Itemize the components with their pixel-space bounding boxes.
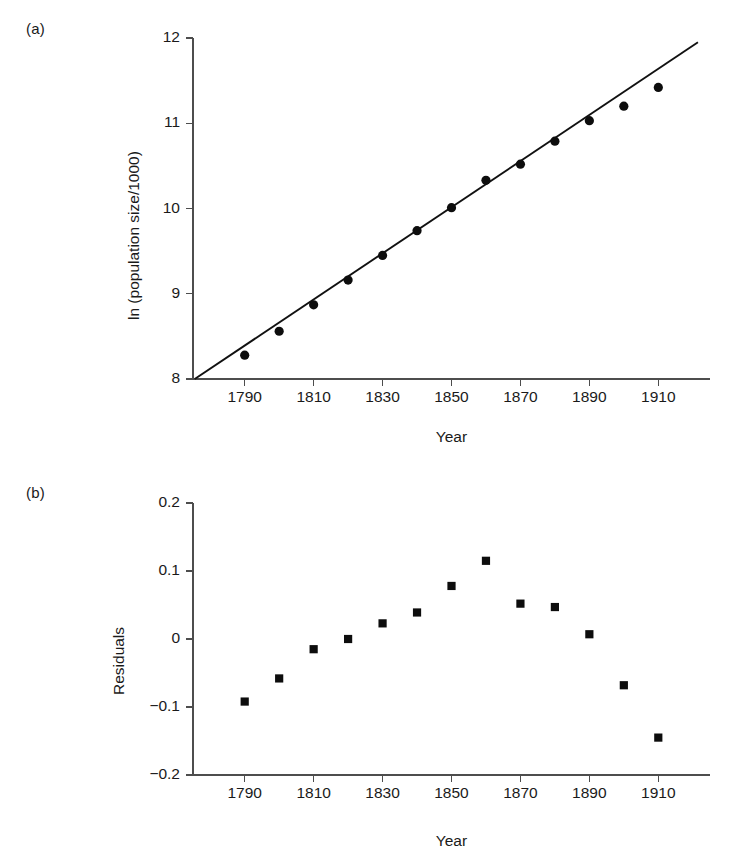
x-tick-label: 1810	[296, 388, 331, 405]
data-point	[378, 251, 387, 260]
panel-a: (a) 891011121790181018301850187018901910…	[0, 0, 754, 440]
x-tick-label: 1830	[365, 388, 400, 405]
data-point	[654, 83, 663, 92]
data-point	[275, 327, 284, 336]
data-point	[413, 608, 421, 616]
y-tick-label: 0	[171, 629, 180, 646]
x-tick-label: 1910	[641, 784, 676, 801]
data-point	[447, 203, 456, 212]
x-tick-label: 1810	[296, 784, 331, 801]
data-point	[447, 582, 455, 590]
data-point	[516, 600, 524, 608]
data-point	[620, 681, 628, 689]
x-tick-label: 1890	[572, 388, 607, 405]
x-tick-label: 1870	[503, 784, 538, 801]
panel-a-y-axis-title: ln (population size/1000)	[125, 151, 143, 320]
data-point	[309, 300, 318, 309]
y-tick-label: −0.2	[149, 765, 180, 782]
data-point	[550, 137, 559, 146]
data-point	[378, 619, 386, 627]
x-tick-label: 1830	[365, 784, 400, 801]
data-point	[654, 734, 662, 742]
data-point	[585, 116, 594, 125]
y-tick-label: 8	[171, 369, 180, 386]
x-tick-label: 1790	[227, 784, 262, 801]
x-tick-label: 1850	[434, 784, 469, 801]
y-tick-label: 0.2	[158, 493, 180, 510]
x-tick-label: 1890	[572, 784, 607, 801]
panel-b-x-axis-title: Year	[302, 832, 602, 850]
y-tick-label: 0.1	[158, 561, 180, 578]
y-tick-label: −0.1	[149, 697, 180, 714]
scatter-plot-population: 891011121790181018301850187018901910	[0, 0, 754, 440]
panel-b-y-axis-title: Residuals	[110, 627, 128, 695]
data-point	[412, 226, 421, 235]
data-point	[344, 276, 353, 285]
y-tick-label: 12	[163, 28, 180, 45]
data-point	[619, 102, 628, 111]
x-tick-label: 1910	[641, 388, 676, 405]
x-tick-label: 1870	[503, 388, 538, 405]
panel-b: (b) −0.2−0.100.10.2179018101830185018701…	[0, 440, 754, 867]
y-tick-label: 10	[163, 199, 181, 216]
y-tick-label: 9	[171, 284, 180, 301]
data-point	[482, 557, 490, 565]
x-tick-label: 1850	[434, 388, 469, 405]
data-point	[240, 351, 249, 360]
data-point	[344, 635, 352, 643]
data-point	[275, 674, 283, 682]
data-point	[481, 176, 490, 185]
regression-fit-line	[195, 42, 698, 379]
data-point	[516, 160, 525, 169]
data-point	[241, 697, 249, 705]
figure-two-panel-regression: (a) 891011121790181018301850187018901910…	[0, 0, 754, 867]
y-tick-label: 11	[164, 113, 180, 130]
data-point	[310, 645, 318, 653]
data-point	[585, 630, 593, 638]
x-tick-label: 1790	[227, 388, 262, 405]
data-point	[551, 603, 559, 611]
